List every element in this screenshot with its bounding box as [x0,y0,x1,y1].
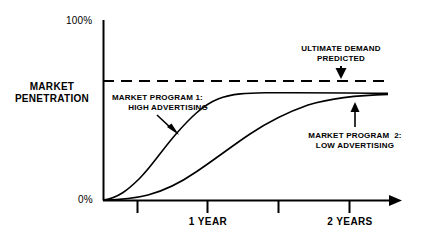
x-axis-tick-label-1-year: 1 YEAR [186,216,230,227]
y-axis-min-label: 0% [78,194,93,205]
chart-figure: 100% 0% MARKET PENETRATION 1 YEAR 2 YEAR… [0,0,425,241]
y-axis-title-line-1: MARKET [6,81,98,93]
y-axis-max-label: 100% [66,15,92,26]
x-axis-tick-label-2-years: 2 YEARS [325,216,375,227]
program-2-arrowhead [351,102,360,112]
x-axis-arrowhead [389,195,402,206]
annotation-program-1-line-1: MARKET PROGRAM 1: [112,93,208,103]
annotation-program-2-line-1: MARKET PROGRAM 2: [305,131,405,141]
annotation-program-2-line-2: LOW ADVERTISING [305,141,405,151]
ultimate-demand-arrowhead [336,68,347,79]
annotation-ultimate-demand-line-1: ULTIMATE DEMAND [281,44,401,54]
annotation-program-1-line-2: HIGH ADVERTISING [112,103,208,113]
chart-plot-area [0,0,425,241]
annotation-ultimate-demand-line-2: PREDICTED [281,54,401,64]
y-axis-title-line-2: PENETRATION [6,93,98,105]
